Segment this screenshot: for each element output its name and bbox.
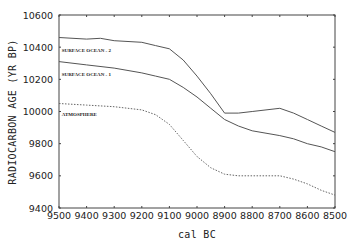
series-labels: SURFACE OCEAN - 2SURFACE OCEAN - 1ATMOSP…	[62, 48, 112, 117]
y-axis-label: RADIOCARBON AGE (YR BP)	[7, 39, 18, 184]
y-tick-label: 10200	[23, 74, 53, 85]
x-tick-label: 8900	[213, 210, 237, 221]
series-label-2: ATMOSPHERE	[62, 112, 98, 117]
series-label-0: SURFACE OCEAN - 2	[62, 48, 112, 53]
x-axis-label: cal BC	[178, 229, 216, 240]
y-tick-label: 10400	[23, 42, 53, 53]
x-tick-label: 8700	[268, 210, 292, 221]
x-tick-label: 8600	[295, 210, 319, 221]
x-tick-label: 9400	[75, 210, 99, 221]
y-tick-label: 9800	[29, 138, 53, 149]
y-tick-label: 9400	[29, 203, 53, 214]
series-lines	[59, 38, 335, 196]
x-tick-label: 9100	[157, 210, 181, 221]
x-tick-label: 9300	[102, 210, 126, 221]
y-tick-label: 9600	[29, 170, 53, 181]
x-tick-label: 9200	[130, 210, 154, 221]
y-tick-label: 10000	[23, 106, 53, 117]
series-line-2	[59, 104, 335, 196]
x-axis: 9500940093009200910090008900880087008600…	[47, 15, 347, 221]
x-tick-label: 8800	[240, 210, 264, 221]
series-label-1: SURFACE OCEAN - 1	[62, 72, 112, 77]
radiocarbon-chart: 9500940093009200910090008900880087008600…	[0, 0, 358, 245]
x-tick-label: 9000	[185, 210, 209, 221]
x-tick-label: 8500	[323, 210, 347, 221]
y-tick-label: 10600	[23, 10, 53, 21]
